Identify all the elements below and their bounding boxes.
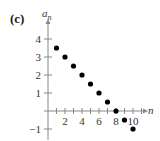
data-point	[113, 108, 118, 113]
y-axis-label: an	[42, 7, 52, 22]
y-tick-label: 1	[36, 87, 42, 99]
x-axis-label: n	[148, 104, 154, 116]
data-point	[96, 90, 101, 95]
y-tick-label: −1	[29, 123, 41, 135]
data-point	[122, 117, 127, 122]
data-point	[79, 72, 84, 77]
y-tick-label: 2	[36, 69, 42, 81]
data-point	[88, 81, 93, 86]
data-point	[130, 126, 135, 131]
data-point	[71, 63, 76, 68]
x-tick-label: 8	[113, 115, 119, 127]
x-tick-label: 10	[128, 115, 140, 127]
data-point	[62, 54, 67, 59]
scatter-chart: 246810−11234 an n	[0, 0, 160, 141]
data-point	[54, 45, 59, 50]
x-tick-label: 2	[62, 115, 68, 127]
x-tick-label: 4	[79, 115, 85, 127]
axes: 246810−11234	[29, 19, 148, 140]
y-tick-label: 3	[36, 51, 42, 63]
y-tick-label: 4	[36, 33, 42, 45]
data-point	[105, 99, 110, 104]
x-tick-label: 6	[96, 115, 102, 127]
